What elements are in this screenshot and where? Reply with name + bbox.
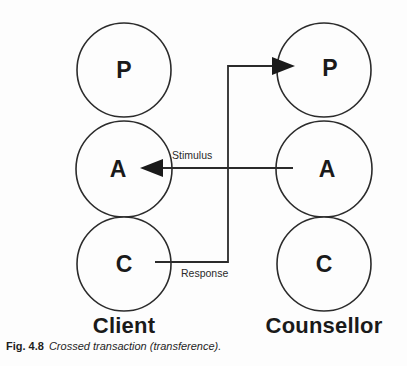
client-column: P A C Client	[76, 23, 172, 338]
counsellor-parent-label: P	[322, 55, 337, 81]
figure-container: P A C Client P A C Counsellor Response	[0, 0, 407, 366]
client-adult-label: A	[110, 156, 127, 182]
client-column-label: Client	[93, 313, 156, 338]
response-label: Response	[181, 267, 228, 279]
figure-caption-text: Crossed transaction (transference).	[49, 340, 221, 352]
counsellor-child-label: C	[316, 251, 333, 277]
counsellor-adult-label: A	[319, 156, 336, 182]
counsellor-column-label: Counsellor	[266, 313, 383, 338]
response-line	[155, 66, 287, 262]
client-parent-label: P	[116, 57, 131, 83]
figure-number: Fig. 4.8	[6, 340, 44, 352]
stimulus-label: Stimulus	[172, 149, 212, 161]
client-child-label: C	[116, 251, 133, 277]
figure-caption: Fig. 4.8Crossed transaction (transferenc…	[6, 340, 401, 352]
crossed-transaction-diagram: P A C Client P A C Counsellor Response	[0, 0, 407, 366]
